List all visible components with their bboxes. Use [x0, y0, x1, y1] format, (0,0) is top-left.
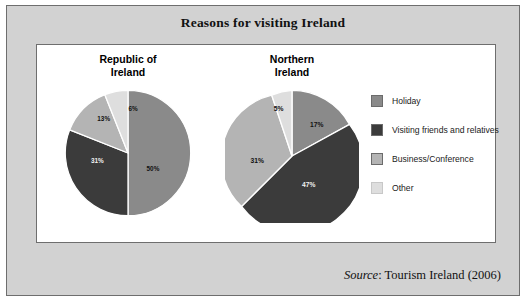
- figure-frame: Reasons for visiting Ireland Republic of…: [6, 5, 520, 296]
- pie-label-holiday: 17%: [310, 121, 323, 128]
- pie-svg-republic: 50% 31% 13% 6%: [64, 89, 192, 217]
- chart-panel: Republic of Ireland 50% 31% 13% 6%: [36, 44, 496, 243]
- visiting-swatch-icon: [371, 124, 383, 136]
- pie-chart-republic-of-ireland: 50% 31% 13% 6%: [64, 89, 192, 217]
- pie-label-visiting: 31%: [91, 157, 104, 164]
- other-swatch-icon: [371, 182, 383, 194]
- pie-title-northern-ireland: Northern Ireland: [207, 53, 377, 78]
- pie-label-business: 31%: [250, 157, 263, 164]
- legend-item-visiting-friends-and-relatives: Visiting friends and relatives: [371, 116, 491, 143]
- pie-block-northern-ireland: Northern Ireland 17% 47% 31% 5%: [207, 45, 377, 242]
- legend-item-business-conference: Business/Conference: [371, 145, 491, 172]
- chart-legend: Holiday Visiting friends and relatives B…: [371, 87, 491, 203]
- legend-item-holiday: Holiday: [371, 87, 491, 114]
- pie-label-visiting: 47%: [302, 181, 315, 188]
- source-label: Source: [344, 268, 378, 282]
- holiday-swatch-icon: [371, 95, 383, 107]
- source-value: : Tourism Ireland (2006): [378, 268, 501, 282]
- legend-item-other: Other: [371, 174, 491, 201]
- pie-title-line-2: Ireland: [43, 66, 213, 79]
- pie-label-other: 5%: [274, 105, 284, 112]
- pie-label-holiday: 50%: [147, 165, 160, 172]
- legend-label-visiting-friends-and-relatives: Visiting friends and relatives: [392, 125, 499, 135]
- pie-svg-northern: 17% 47% 31% 5%: [225, 89, 359, 223]
- business-swatch-icon: [371, 153, 383, 165]
- pie-block-republic-of-ireland: Republic of Ireland 50% 31% 13% 6%: [43, 45, 213, 242]
- pie-label-business: 13%: [97, 115, 110, 122]
- pie-title-republic-of-ireland: Republic of Ireland: [43, 53, 213, 78]
- pie-chart-northern-ireland: 17% 47% 31% 5%: [225, 89, 359, 223]
- legend-label-other: Other: [392, 183, 414, 193]
- pie-title-line-1: Republic of: [99, 53, 156, 65]
- figure-title: Reasons for visiting Ireland: [7, 15, 519, 31]
- pie-label-other: 6%: [129, 105, 139, 112]
- pie-title-line-2: Ireland: [207, 66, 377, 79]
- source-attribution: Source: Tourism Ireland (2006): [344, 268, 501, 283]
- pie-title-line-1: Northern: [270, 53, 314, 65]
- legend-label-business-conference: Business/Conference: [392, 154, 474, 164]
- legend-label-holiday: Holiday: [392, 96, 421, 106]
